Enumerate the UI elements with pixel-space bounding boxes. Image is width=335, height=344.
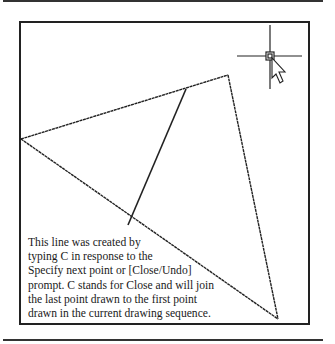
caption-line: Specify next point or [Close/Undo] xyxy=(28,264,288,278)
figure-caption: This line was created by typing C in res… xyxy=(28,236,288,321)
crosshair-cursor-icon xyxy=(237,25,302,89)
callout-leader-line xyxy=(128,89,186,225)
arrow-pointer-icon xyxy=(272,58,285,83)
caption-line: typing C in response to the xyxy=(28,250,288,264)
caption-line: drawn in the current drawing sequence. xyxy=(28,307,288,321)
bottom-rule xyxy=(3,339,323,341)
caption-line: prompt. C stands for Close and will join xyxy=(28,279,288,293)
edge-left-top xyxy=(21,75,228,139)
caption-line: This line was created by xyxy=(28,236,288,250)
caption-line: the last point drawn to the first point xyxy=(28,293,288,307)
